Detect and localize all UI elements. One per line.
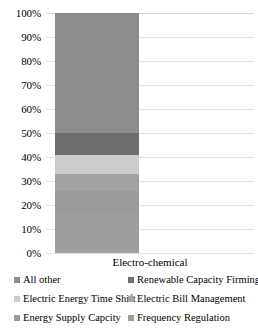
y-axis: 100% 90% 80% 70% 60% 50% 40% 30% 20% 10%… — [0, 0, 44, 258]
plot-area: 100% 90% 80% 70% 60% 50% 40% 30% 20% 10%… — [0, 0, 258, 258]
y-axis-tick-label: 70% — [21, 80, 41, 91]
bar-segment-all-other — [55, 13, 139, 133]
chart-legend: All other Renewable Capacity Firming Ele… — [0, 274, 258, 330]
legend-item-electric-bill-management[interactable]: Electric Bill Management — [128, 293, 245, 305]
legend-item-label: Energy Supply Capcity — [23, 312, 121, 324]
legend-swatch-icon — [14, 277, 20, 283]
legend-item-all-other[interactable]: All other — [14, 274, 61, 286]
legend-item-label: Electric Energy Time Shift — [23, 293, 136, 305]
y-axis-tick-label: 100% — [16, 8, 41, 19]
legend-swatch-icon — [128, 296, 134, 302]
bar-segment-energy-supply-capcity — [55, 191, 139, 213]
y-axis-tick-label: 10% — [21, 224, 41, 235]
legend-item-label: Electric Bill Management — [137, 293, 245, 305]
legend-item-frequency-regulation[interactable]: Frequency Regulation — [128, 312, 230, 324]
y-axis-tick-label: 50% — [21, 128, 41, 139]
legend-item-renewable-capacity-firming[interactable]: Renewable Capacity Firming — [128, 274, 258, 286]
bar-segment-electric-energy-time-shift — [55, 155, 139, 174]
bar-segment-frequency-regulation — [55, 212, 139, 253]
bar-segment-electric-bill-management — [55, 174, 139, 191]
bar-segment-renewable-capacity-firming — [55, 133, 139, 155]
x-axis-category-label: Electro-chemical — [46, 256, 254, 269]
legend-swatch-icon — [128, 315, 134, 321]
y-axis-tick-label: 20% — [21, 200, 41, 211]
y-axis-tick-label: 90% — [21, 32, 41, 43]
legend-swatch-icon — [128, 277, 134, 283]
y-axis-tick-label: 0% — [27, 248, 41, 259]
legend-swatch-icon — [14, 296, 20, 302]
y-axis-tick-label: 80% — [21, 56, 41, 67]
legend-item-label: Renewable Capacity Firming — [137, 274, 258, 286]
legend-item-energy-supply-capcity[interactable]: Energy Supply Capcity — [14, 312, 121, 324]
legend-item-label: Frequency Regulation — [137, 312, 230, 324]
legend-row: Energy Supply Capcity Frequency Regulati… — [0, 312, 258, 329]
legend-row: Electric Energy Time Shift Electric Bill… — [0, 293, 258, 310]
bar-electro-chemical — [55, 13, 139, 253]
legend-row: All other Renewable Capacity Firming — [0, 274, 258, 291]
legend-item-label: All other — [23, 274, 61, 286]
legend-swatch-icon — [14, 315, 20, 321]
y-axis-tick-label: 40% — [21, 152, 41, 163]
gridline — [46, 253, 254, 254]
legend-item-electric-energy-time-shift[interactable]: Electric Energy Time Shift — [14, 293, 136, 305]
stacked-bar-chart: 100% 90% 80% 70% 60% 50% 40% 30% 20% 10%… — [0, 0, 258, 330]
y-axis-tick-label: 60% — [21, 104, 41, 115]
y-axis-tick-label: 30% — [21, 176, 41, 187]
